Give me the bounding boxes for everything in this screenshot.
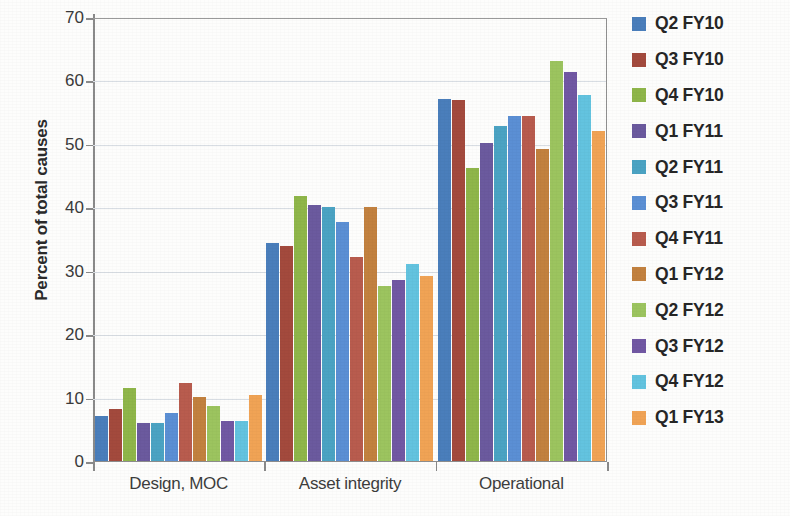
bar [249, 395, 262, 462]
chart-legend: Q2 FY10Q3 FY10Q4 FY10Q1 FY11Q2 FY11Q3 FY… [632, 6, 788, 436]
bar [480, 143, 493, 462]
bar [350, 257, 363, 462]
x-tick-mark [607, 462, 609, 471]
bar [508, 116, 521, 462]
legend-label: Q4 FY10 [655, 85, 724, 106]
legend-item[interactable]: Q3 FY10 [632, 42, 788, 78]
legend-item[interactable]: Q4 FY12 [632, 364, 788, 400]
bar [466, 168, 479, 462]
legend-label: Q1 FY11 [655, 121, 723, 142]
legend-item[interactable]: Q2 FY12 [632, 292, 788, 328]
legend-label: Q2 FY10 [655, 13, 724, 34]
y-tick-label: 20 [44, 325, 84, 345]
legend-item[interactable]: Q1 FY13 [632, 400, 788, 436]
legend-swatch-icon [632, 124, 646, 138]
x-axis-labels: Design, MOCAsset integrityOperational [93, 474, 607, 494]
bar [406, 264, 419, 462]
bar [280, 246, 293, 462]
bar [536, 149, 549, 462]
legend-label: Q1 FY13 [655, 407, 724, 428]
legend-swatch-icon [632, 17, 646, 31]
legend-label: Q2 FY12 [655, 300, 724, 321]
bar-group [264, 18, 435, 462]
legend-swatch-icon [632, 88, 646, 102]
bar-chart: Percent of total causes 010203040506070 … [0, 0, 790, 516]
legend-swatch-icon [632, 232, 646, 246]
legend-item[interactable]: Q1 FY11 [632, 113, 788, 149]
bar [592, 131, 605, 462]
x-tick-label: Operational [436, 474, 607, 494]
bar [137, 423, 150, 462]
bar [235, 421, 248, 462]
bar [336, 222, 349, 462]
legend-swatch-icon [632, 411, 646, 425]
legend-label: Q1 FY12 [655, 264, 724, 285]
bar [221, 421, 234, 462]
bar [438, 99, 451, 462]
legend-swatch-icon [632, 375, 646, 389]
y-tick-label: 50 [44, 135, 84, 155]
bar [564, 72, 577, 462]
legend-item[interactable]: Q3 FY11 [632, 185, 788, 221]
legend-item[interactable]: Q3 FY12 [632, 328, 788, 364]
bar [123, 388, 136, 462]
legend-swatch-icon [632, 303, 646, 317]
legend-item[interactable]: Q1 FY12 [632, 257, 788, 293]
legend-label: Q2 FY11 [655, 157, 723, 178]
legend-item[interactable]: Q4 FY11 [632, 221, 788, 257]
bar [452, 100, 465, 462]
bar [522, 116, 535, 462]
legend-swatch-icon [632, 53, 646, 67]
bar [550, 61, 563, 462]
legend-label: Q3 FY12 [655, 336, 724, 357]
y-tick-label: 60 [44, 71, 84, 91]
bar [95, 416, 108, 462]
bar [165, 413, 178, 462]
bar [308, 205, 321, 462]
x-tick-mark [436, 462, 438, 471]
y-tick-label: 40 [44, 198, 84, 218]
y-tick-label: 70 [44, 8, 84, 28]
x-tick-mark [264, 462, 266, 471]
bar [207, 406, 220, 462]
legend-swatch-icon [632, 160, 646, 174]
y-tick-label: 30 [44, 262, 84, 282]
x-tick-label: Asset integrity [264, 474, 435, 494]
y-tick-label: 10 [44, 389, 84, 409]
bar-group [93, 18, 264, 462]
legend-label: Q4 FY11 [655, 228, 723, 249]
bar-group [436, 18, 607, 462]
bar [109, 409, 122, 462]
legend-label: Q4 FY12 [655, 371, 724, 392]
bar [193, 397, 206, 462]
legend-swatch-icon [632, 196, 646, 210]
bar [392, 280, 405, 462]
bar [322, 207, 335, 462]
bar [578, 95, 591, 462]
legend-item[interactable]: Q2 FY11 [632, 149, 788, 185]
bar [364, 207, 377, 462]
legend-label: Q3 FY11 [655, 192, 723, 213]
bar [266, 243, 279, 462]
legend-swatch-icon [632, 339, 646, 353]
legend-item[interactable]: Q4 FY10 [632, 78, 788, 114]
bar [420, 276, 433, 462]
bar [494, 126, 507, 462]
legend-item[interactable]: Q2 FY10 [632, 6, 788, 42]
legend-swatch-icon [632, 267, 646, 281]
x-tick-mark [93, 462, 95, 471]
bar [378, 286, 391, 462]
plot-area [93, 18, 607, 462]
y-tick-label: 0 [44, 452, 84, 472]
bar-groups [93, 18, 607, 462]
x-tick-label: Design, MOC [93, 474, 264, 494]
bar [151, 423, 164, 462]
bar [179, 383, 192, 462]
legend-label: Q3 FY10 [655, 49, 724, 70]
bar [294, 196, 307, 462]
